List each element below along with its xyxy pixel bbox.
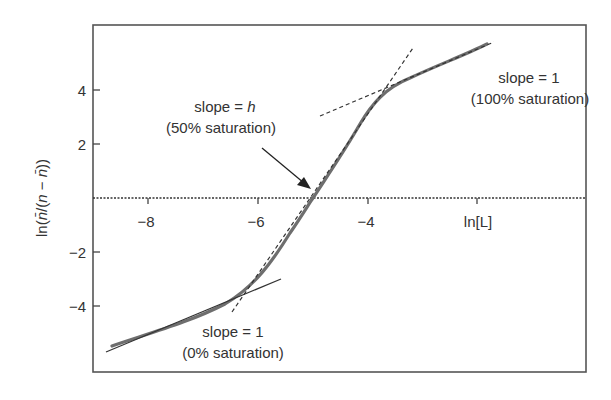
x-axis-label: ln[L] bbox=[464, 213, 492, 230]
annotation-mid-line1: slope = h bbox=[194, 98, 255, 115]
annotation-bottom-line1: slope = 1 bbox=[202, 323, 263, 340]
chart-svg: 4 2 −2 −4 −8 −6 −4 ln[L] ln(n̄/(n − n̄))… bbox=[0, 0, 611, 400]
annotation-top-line2: (100% saturation) bbox=[471, 90, 589, 107]
x-tick-label: −6 bbox=[247, 213, 264, 230]
annotation-top-line1: slope = 1 bbox=[498, 69, 559, 86]
y-tick-label: 4 bbox=[78, 82, 86, 99]
y-tick-label: −2 bbox=[69, 244, 86, 261]
annotation-mid: slope = h (50% saturation) bbox=[166, 98, 276, 136]
annotation-bottom-line2: (0% saturation) bbox=[182, 344, 284, 361]
x-tick-label: −4 bbox=[357, 213, 374, 230]
low-asymptote-line bbox=[106, 279, 281, 352]
y-tick-labels: 4 2 −2 −4 bbox=[69, 82, 86, 315]
y-axis-label: ln(n̄/(n − n̄)) bbox=[33, 159, 50, 237]
x-tick-labels: −8 −6 −4 bbox=[137, 213, 374, 230]
annotation-mid-line2: (50% saturation) bbox=[166, 119, 276, 136]
hill-curve bbox=[112, 44, 487, 346]
y-tick-label: −4 bbox=[69, 298, 86, 315]
annotation-top: slope = 1 (100% saturation) bbox=[471, 69, 589, 107]
arrow-line bbox=[262, 148, 304, 183]
y-tick-label: 2 bbox=[78, 136, 86, 153]
hill-plot-chart: 4 2 −2 −4 −8 −6 −4 ln[L] ln(n̄/(n − n̄))… bbox=[0, 0, 611, 400]
annotation-bottom: slope = 1 (0% saturation) bbox=[182, 323, 284, 361]
x-tick-label: −8 bbox=[137, 213, 154, 230]
